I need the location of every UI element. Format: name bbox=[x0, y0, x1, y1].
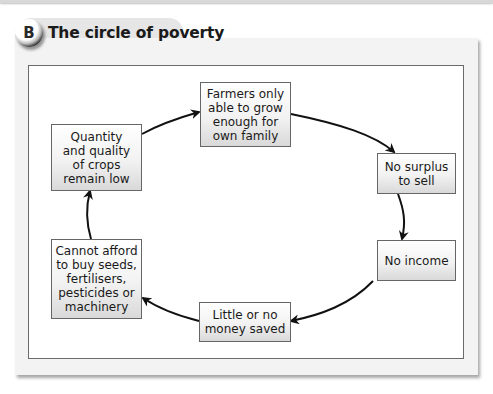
arrow-quantity-to-farmers bbox=[142, 112, 199, 134]
node-no-income: No income bbox=[377, 240, 456, 281]
node-cannot-afford: Cannot afford to buy seeds, fertilisers,… bbox=[51, 239, 142, 319]
arrow-money-to-afford bbox=[143, 298, 199, 321]
node-farmers: Farmers only able to grow enough for own… bbox=[200, 82, 291, 147]
node-quantity: Quantity and quality of crops remain low bbox=[51, 124, 142, 191]
arrow-income-to-money bbox=[291, 281, 373, 321]
node-little-money: Little or no money saved bbox=[199, 302, 291, 342]
arrow-farmers-to-surplus bbox=[291, 114, 394, 152]
arrow-afford-to-quantity bbox=[87, 191, 91, 239]
node-no-surplus: No surplus to sell bbox=[377, 153, 456, 194]
arrow-surplus-to-income bbox=[398, 194, 404, 239]
